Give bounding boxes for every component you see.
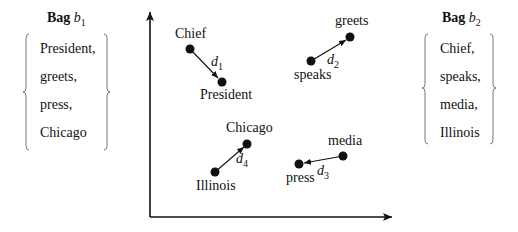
right-brace-icon <box>104 34 110 150</box>
left-brace-icon <box>23 34 29 150</box>
right-brace-icon <box>490 34 496 144</box>
point-speaks <box>307 57 316 66</box>
label-press: press <box>286 170 315 186</box>
point-chief <box>186 45 195 54</box>
bag-b2-item: Illinois <box>440 125 480 141</box>
label-speaks: speaks <box>294 67 331 83</box>
label-media: media <box>328 133 362 149</box>
bag-b1-item: Chicago <box>40 125 87 141</box>
left-brace-icon <box>422 34 428 144</box>
point-illinois <box>211 168 220 177</box>
bag-b2-item: media, <box>440 97 478 113</box>
label-chicago: Chicago <box>226 120 273 136</box>
label-president: President <box>200 87 252 103</box>
point-chicago <box>243 140 252 149</box>
point-president <box>218 78 227 87</box>
label-d4: d4 <box>236 151 248 169</box>
label-greets: greets <box>335 13 368 29</box>
bag-b1-item: greets, <box>40 69 77 85</box>
axes <box>150 12 392 217</box>
label-chief: Chief <box>175 26 206 42</box>
bag-b2-item: Chief, <box>440 41 475 57</box>
label-illinois: Illinois <box>196 178 236 194</box>
label-d3: d3 <box>317 163 329 181</box>
bag-b1-title: Bag b1 <box>47 10 86 28</box>
bag-b2-item: speaks, <box>440 69 481 85</box>
bag-b1-item: press, <box>40 97 72 113</box>
point-press <box>295 160 304 169</box>
embedding-diagram-graphics <box>0 0 518 232</box>
point-greets <box>346 33 355 42</box>
point-media <box>339 152 348 161</box>
bag-b1-item: President, <box>40 41 96 57</box>
label-d1: d1 <box>211 54 223 72</box>
label-d2: d2 <box>327 52 339 70</box>
bag-b2-title: Bag b2 <box>442 10 481 28</box>
